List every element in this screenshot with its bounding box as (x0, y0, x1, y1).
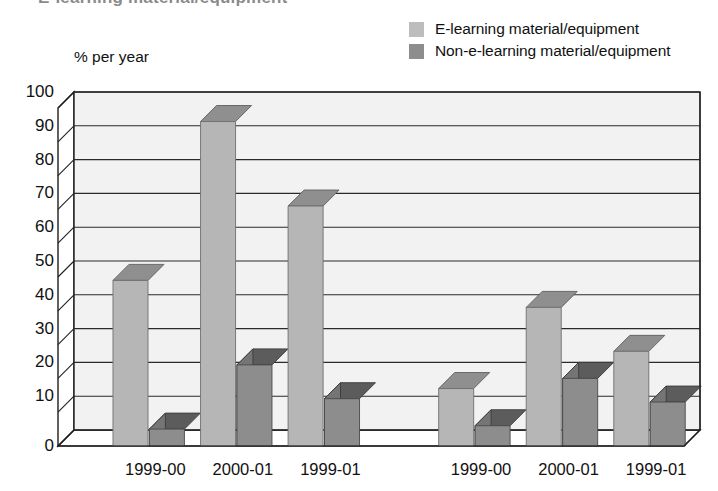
x-axis-tick-label: 1999-00 (125, 460, 186, 479)
y-axis-tick-label: 80 (8, 150, 54, 170)
y-axis-tick-label: 70 (8, 183, 54, 203)
bar-front (526, 307, 561, 446)
y-axis-tick-label: 90 (8, 116, 54, 136)
y-axis-tick-label: 20 (8, 352, 54, 372)
y-axis-tick-label: 30 (8, 319, 54, 339)
bar-front (201, 122, 236, 446)
bar-front (614, 351, 649, 446)
y-axis-tick-label: 100 (8, 82, 54, 102)
x-axis-tick-label: 1999-00 (451, 460, 512, 479)
chart-svg (0, 0, 718, 491)
plot-area: 1009080706050403020100 1999-002000-01199… (0, 0, 718, 491)
bar-front (650, 402, 685, 446)
x-axis-tick-label: 2000-01 (213, 460, 274, 479)
x-axis-tick-label: 1999-01 (626, 460, 687, 479)
bar-front (149, 429, 184, 446)
bar-front (288, 206, 323, 446)
y-axis-tick-label: 50 (8, 251, 54, 271)
x-axis-tick-label: 1999-01 (300, 460, 361, 479)
y-axis-tick-label: 10 (8, 386, 54, 406)
bar-front (439, 389, 474, 446)
bar-front (113, 280, 148, 446)
y-axis-tick-label: 60 (8, 217, 54, 237)
bar-front (325, 399, 360, 446)
y-axis-tick-label: 0 (8, 436, 54, 456)
bar-front (237, 365, 272, 446)
y-axis-tick-label: 40 (8, 285, 54, 305)
bar-front (563, 378, 598, 446)
chart-page: E-learning material/equipment E-learning… (0, 0, 718, 491)
bar-front (475, 426, 510, 446)
x-axis-tick-label: 2000-01 (538, 460, 599, 479)
